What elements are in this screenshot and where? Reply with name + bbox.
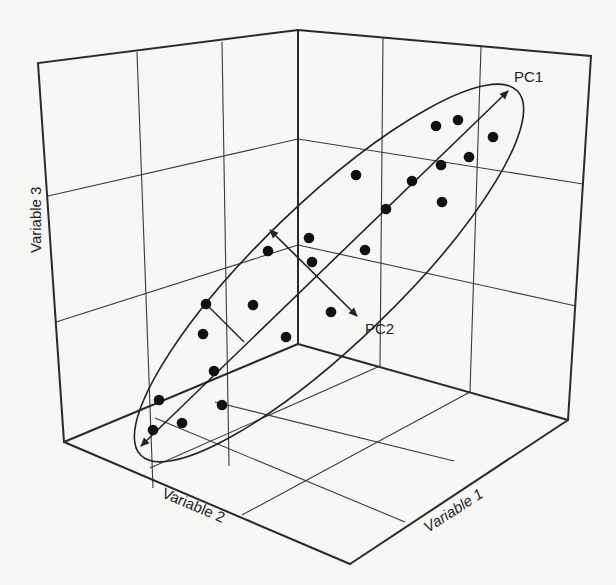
pca-3d-diagram: PC1 PC2 Variable 3 Variable 2 Variable 1 — [0, 0, 616, 585]
data-point — [407, 176, 418, 187]
data-point — [326, 307, 337, 318]
pc2-label: PC2 — [365, 320, 394, 337]
data-point — [263, 246, 274, 257]
data-point — [154, 395, 165, 406]
left-wall — [48, 42, 298, 488]
data-point — [437, 197, 448, 208]
right-wall — [298, 38, 583, 392]
floor-gridline — [215, 402, 454, 461]
pc1-arrow — [141, 91, 508, 446]
floor-gridline — [242, 392, 470, 515]
variable-1-axis — [350, 420, 568, 564]
data-point — [217, 400, 228, 411]
data-point — [248, 300, 259, 311]
floor-gridline — [150, 366, 380, 468]
projection-line — [206, 304, 244, 342]
data-point — [351, 170, 362, 181]
data-point — [148, 425, 159, 436]
pc2-arrow — [270, 230, 357, 316]
data-point — [304, 233, 315, 244]
data-point — [201, 299, 212, 310]
pc1-label: PC1 — [514, 68, 543, 85]
data-point — [453, 115, 464, 126]
data-ellipse — [92, 41, 566, 506]
data-point — [198, 329, 209, 340]
left-wall-gridline — [137, 52, 153, 488]
data-point — [307, 257, 318, 268]
variable-2-axis-label: Variable 2 — [160, 484, 228, 526]
floor-back-right-edge — [298, 344, 568, 420]
data-point — [360, 245, 371, 256]
left-wall-gridline — [56, 245, 298, 322]
data-point — [464, 152, 475, 163]
left-wall-gridline — [48, 139, 298, 196]
variable-3-axis-label: Variable 3 — [27, 187, 44, 253]
data-points — [148, 115, 499, 436]
data-point — [209, 366, 220, 377]
data-point — [177, 418, 188, 429]
data-point — [381, 204, 392, 215]
right-wall-gridline — [470, 47, 481, 392]
data-point — [281, 332, 292, 343]
data-point — [436, 160, 447, 171]
data-point — [431, 121, 442, 132]
right-wall-gridline — [380, 38, 383, 366]
data-point — [488, 132, 499, 143]
